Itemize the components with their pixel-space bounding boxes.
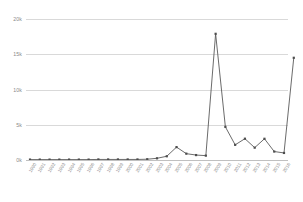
y-axis-tick-label: 5k [16,122,22,128]
x-axis-tick-label: 1995 [76,162,85,173]
data-point-marker [293,57,295,59]
data-point-marker [175,146,177,148]
x-axis-tick-label: 1993 [57,162,66,173]
x-axis-tick-label: 2003 [154,162,163,173]
x-axis-tick-label: 2001 [135,162,144,173]
x-axis-tick-label: 2004 [164,162,173,173]
x-axis-tick-label: 2012 [242,162,251,173]
y-axis-tick-label: 15k [13,51,22,57]
data-point-marker [224,126,226,128]
data-point-marker [263,138,265,140]
data-point-marker [205,155,207,157]
x-axis-tick-labels: 1990199119921993199419951996199719981999… [26,162,288,202]
data-point-marker [195,154,197,156]
x-axis-tick-label: 1997 [96,162,105,173]
data-point-marker [283,152,285,154]
x-axis-tick-label: 2016 [281,162,290,173]
x-axis-tick-label: 2014 [262,162,271,173]
data-point-marker [215,33,217,35]
data-point-marker [166,155,168,157]
data-point-marker [244,138,246,140]
x-axis-tick-label: 2005 [174,162,183,173]
x-axis-tick-label: 2008 [203,162,212,173]
y-axis-tick-labels: 20k15k10k5k0k [0,19,22,160]
x-axis-tick-label: 2009 [213,162,222,173]
line-chart: 20k15k10k5k0k 19901991199219931994199519… [0,0,303,202]
data-point-marker [254,147,256,149]
x-axis-tick-label: 1999 [115,162,124,173]
data-point-marker [234,144,236,146]
x-axis-tick-label: 2007 [193,162,202,173]
x-axis-line [26,160,288,161]
x-axis-tick-label: 2015 [272,162,281,173]
x-axis-tick-label: 2011 [233,162,242,173]
x-axis-tick-label: 2002 [145,162,154,173]
series-path [30,34,294,160]
x-axis-tick-label: 1996 [86,162,95,173]
data-point-marker [273,150,275,152]
x-axis-tick-label: 1990 [27,162,36,173]
x-axis-tick-label: 2010 [223,162,232,173]
x-axis-tick-label: 1994 [66,162,75,173]
y-axis-tick-label: 10k [13,87,22,93]
y-axis-tick-label: 20k [13,16,22,22]
x-axis-tick-label: 2013 [252,162,261,173]
x-axis-tick-label: 2000 [125,162,134,173]
data-point-marker [185,153,187,155]
x-axis-tick-label: 2006 [184,162,193,173]
x-axis-tick-label: 1991 [37,162,46,173]
x-axis-tick-label: 1992 [47,162,56,173]
data-series-line [26,19,288,160]
plot-area [26,19,288,160]
y-axis-tick-label: 0k [16,157,22,163]
x-axis-tick-label: 1998 [106,162,115,173]
